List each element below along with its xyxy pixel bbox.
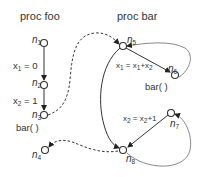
node-n3 [41,112,48,119]
node-n2 [41,82,48,89]
label-n6: n6 [168,63,178,75]
label-n3: n3 [32,109,42,121]
label-n5: n5 [127,34,137,46]
proc-bar-title: proc bar [117,10,158,22]
label-call-bar-bar: bar( ) [145,81,168,92]
label-x2-eq-1: x2 = 1 [13,95,38,107]
label-n1: n1 [32,34,42,46]
label-n8: n8 [126,153,136,165]
label-x1-eq-0: x1 = 0 [13,60,38,72]
return-edge-n8-n4 [49,140,118,151]
node-n1 [41,40,48,47]
node-n5 [120,43,127,50]
label-x2-eq-x2-plus-1: x2 = x2+1 [123,114,157,124]
node-n7 [168,110,175,117]
label-n7: n7 [170,118,180,130]
node-n4 [42,147,49,154]
call-edge-n3-n5 [48,33,119,115]
label-x1-eq-x1-plus-x2: x1 = x1+x2 [116,61,153,71]
interprocedural-cfg-diagram: proc foo proc bar n1 n2 n3 n4 n5 n6 n7 n… [0,0,203,177]
call-edge-n6-n5 [127,43,190,77]
label-call-bar-foo: bar( ) [16,122,39,133]
label-n2: n2 [32,77,42,89]
label-n4: n4 [32,149,42,161]
proc-foo-title: proc foo [20,10,60,22]
